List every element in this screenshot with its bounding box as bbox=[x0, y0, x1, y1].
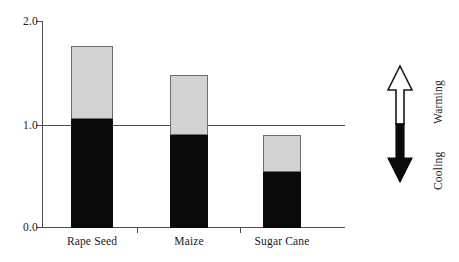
plot-area: 2.0 1.0 0.0 Rape bbox=[42, 21, 345, 228]
y-tick-label-1: 1.0 bbox=[23, 119, 38, 131]
y-tick-label-0: 0.0 bbox=[23, 221, 38, 233]
bar-segment-grey bbox=[263, 135, 301, 172]
x-label-sugar-cane: Sugar Cane bbox=[255, 235, 310, 247]
x-tick-boundary-1 bbox=[137, 227, 138, 233]
x-label-rape-seed: Rape Seed bbox=[67, 235, 117, 247]
bar-segment-grey bbox=[71, 46, 113, 120]
arrow-up-warming bbox=[388, 66, 412, 124]
double-headed-arrow-icon bbox=[382, 64, 418, 184]
x-tick-boundary-2 bbox=[240, 227, 241, 233]
bar-rape-seed bbox=[71, 46, 113, 228]
legend-label-warming: Warming bbox=[432, 80, 444, 124]
legend-warming-cooling: Warming Cooling bbox=[368, 52, 459, 202]
bar-segment-black bbox=[170, 135, 208, 228]
bar-maize bbox=[170, 75, 208, 228]
bar-segment-black bbox=[263, 172, 301, 228]
bar-sugar-cane bbox=[263, 135, 301, 228]
bar-segment-grey bbox=[170, 75, 208, 135]
chart-figure: 2.0 1.0 0.0 Rape bbox=[0, 0, 459, 262]
y-tick-label-2: 2.0 bbox=[23, 15, 38, 27]
arrow-down-cooling bbox=[388, 124, 412, 182]
legend-label-cooling: Cooling bbox=[432, 152, 444, 190]
x-label-maize: Maize bbox=[174, 235, 203, 247]
bar-segment-black bbox=[71, 119, 113, 228]
